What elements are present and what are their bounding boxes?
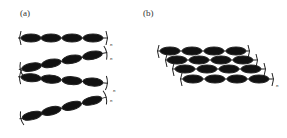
subscript-n: n <box>113 88 116 93</box>
chain-1: n <box>18 31 113 47</box>
chain-3 <box>18 70 109 90</box>
subscript-n: n <box>110 98 113 103</box>
chain-2 <box>17 46 108 77</box>
row-3 <box>172 63 266 76</box>
subscript-n: n <box>276 83 279 88</box>
diagram-canvas: n n n <box>0 0 287 138</box>
panel-a: n n n <box>17 31 116 126</box>
panel-b: n <box>157 45 279 88</box>
subscript-n: n <box>110 56 113 61</box>
chain-4 <box>18 90 109 125</box>
row-4 <box>180 73 274 86</box>
subscript-n: n <box>110 42 113 47</box>
